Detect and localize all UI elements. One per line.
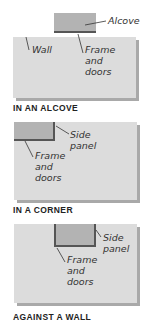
leader-lines bbox=[0, 0, 151, 331]
